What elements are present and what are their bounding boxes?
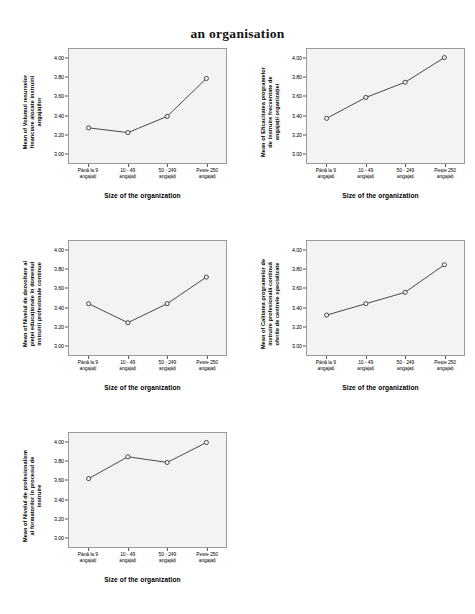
x-tick-mark xyxy=(88,548,89,551)
y-tick-label: 4.00 xyxy=(292,55,302,61)
data-point-marker xyxy=(403,80,407,84)
x-tick-mark xyxy=(326,164,327,167)
x-axis-ticks: Până la 9angajați10 - 49angajați50 - 249… xyxy=(68,164,227,186)
y-tick-label: 3.60 xyxy=(54,285,64,291)
y-tick-label: 3.80 xyxy=(292,74,302,80)
x-tick-mark xyxy=(88,164,89,167)
x-tick-mark xyxy=(366,356,367,359)
data-point-marker xyxy=(87,302,91,306)
x-tick-label-line: angajați xyxy=(422,174,468,180)
y-axis-ticks: 3.003.203.403.603.804.00 xyxy=(40,240,68,356)
data-point-marker xyxy=(87,126,91,130)
y-tick-label: 3.60 xyxy=(292,93,302,99)
data-point-marker xyxy=(165,114,169,118)
x-axis-ticks: Până la 9angajați10 - 49angajați50 - 249… xyxy=(68,548,227,570)
series-line-chart xyxy=(307,241,464,355)
x-tick-mark xyxy=(366,164,367,167)
x-tick-mark xyxy=(167,548,168,551)
y-tick-label: 4.00 xyxy=(292,247,302,253)
y-tick-label: 3.00 xyxy=(54,151,64,157)
x-axis-title: Size of the organization xyxy=(50,384,235,391)
y-axis-ticks: 3.003.203.403.603.804.00 xyxy=(278,240,306,356)
y-tick-label: 3.60 xyxy=(54,93,64,99)
y-tick-label: 3.80 xyxy=(54,458,64,464)
y-tick-label: 3.20 xyxy=(292,132,302,138)
y-tick-label: 3.00 xyxy=(292,343,302,349)
y-axis-ticks: 3.003.203.403.603.804.00 xyxy=(40,432,68,548)
chart-panel-2: Mean of Eficacitatea programelorde instr… xyxy=(238,42,475,232)
data-point-marker xyxy=(403,290,407,294)
y-tick-label: 3.00 xyxy=(292,151,302,157)
y-axis-title-line: Mean of Eficacitatea programelor xyxy=(260,42,267,182)
y-tick-label: 3.80 xyxy=(54,266,64,272)
y-axis-title-line: Mean of Nivelul de dezvoltare al xyxy=(22,234,29,374)
data-point-marker xyxy=(126,455,130,459)
x-axis-title: Size of the organization xyxy=(288,192,473,199)
x-tick-label: Peste 250angajați xyxy=(184,552,230,564)
plot-area xyxy=(68,432,227,548)
series-line xyxy=(89,277,207,323)
y-tick-label: 3.40 xyxy=(292,113,302,119)
y-axis-ticks: 3.003.203.403.603.804.00 xyxy=(278,48,306,164)
y-axis-title-line: instruire profesională continuă xyxy=(267,234,274,374)
x-tick-mark xyxy=(405,356,406,359)
y-tick-label: 3.20 xyxy=(54,516,64,522)
x-tick-label: Peste 250angajați xyxy=(184,168,230,180)
x-tick-mark xyxy=(207,548,208,551)
x-tick-mark xyxy=(128,164,129,167)
y-axis-title: Mean of Eficacitatea programelorde instr… xyxy=(260,42,274,182)
series-line xyxy=(327,58,445,119)
y-axis-title-line: pieței educaționale în domeniul xyxy=(29,234,36,374)
series-line-chart xyxy=(307,49,464,163)
y-tick-label: 3.80 xyxy=(54,74,64,80)
y-axis-ticks: 3.003.203.403.603.804.00 xyxy=(40,48,68,164)
y-axis-title: Mean of Calitatea programelor deinstruir… xyxy=(260,234,274,374)
data-point-marker xyxy=(165,302,169,306)
data-point-marker xyxy=(442,263,446,267)
x-tick-label-line: angajați xyxy=(184,558,230,564)
y-tick-label: 3.00 xyxy=(54,535,64,541)
x-axis-ticks: Până la 9angajați10 - 49angajați50 - 249… xyxy=(306,356,465,378)
page-title: an organisation xyxy=(0,26,475,42)
y-tick-label: 3.20 xyxy=(54,324,64,330)
x-tick-label: Peste 250angajați xyxy=(422,168,468,180)
data-point-marker xyxy=(364,95,368,99)
data-point-marker xyxy=(204,76,208,80)
series-line xyxy=(89,443,207,479)
data-point-marker xyxy=(325,116,329,120)
y-tick-label: 3.40 xyxy=(54,497,64,503)
x-tick-label-line: angajați xyxy=(184,174,230,180)
data-point-marker xyxy=(87,477,91,481)
x-axis-title: Size of the organization xyxy=(50,576,235,583)
y-axis-title-line: Mean of Volumul resurselor xyxy=(22,42,29,182)
data-point-marker xyxy=(442,55,446,59)
y-tick-label: 3.40 xyxy=(54,305,64,311)
chart-panel-5: Mean of Nivelul de profesionalismal form… xyxy=(0,426,237,614)
data-point-marker xyxy=(325,313,329,317)
y-axis-title: Mean of Nivelul de dezvoltare alpieței e… xyxy=(22,234,36,374)
y-tick-label: 3.20 xyxy=(54,132,64,138)
x-tick-mark xyxy=(167,164,168,167)
x-axis-ticks: Până la 9angajați10 - 49angajați50 - 249… xyxy=(68,356,227,378)
x-axis-title: Size of the organization xyxy=(50,192,235,199)
x-tick-label-line: angajați xyxy=(422,366,468,372)
plot-area xyxy=(68,48,227,164)
y-axis-title-line: Mean of Calitatea programelor de xyxy=(260,234,267,374)
y-axis-title-line: financiare alocate instruirii xyxy=(29,42,36,182)
y-axis-title: Mean of Nivelul de profesionalismal form… xyxy=(22,426,36,566)
plot-area xyxy=(68,240,227,356)
data-point-marker xyxy=(126,321,130,325)
x-tick-mark xyxy=(405,164,406,167)
y-tick-label: 4.00 xyxy=(54,55,64,61)
x-tick-label: Peste 250angajați xyxy=(184,360,230,372)
y-tick-label: 3.60 xyxy=(54,477,64,483)
y-tick-label: 3.80 xyxy=(292,266,302,272)
chart-panel-3: Mean of Nivelul de dezvoltare alpieței e… xyxy=(0,234,237,424)
y-tick-label: 3.60 xyxy=(292,285,302,291)
data-point-marker xyxy=(364,302,368,306)
chart-panel-grid: Mean of Volumul resurselorfinanciare alo… xyxy=(0,42,475,614)
plot-area xyxy=(306,48,465,164)
series-line xyxy=(89,78,207,132)
x-tick-mark xyxy=(207,164,208,167)
data-point-marker xyxy=(204,440,208,444)
